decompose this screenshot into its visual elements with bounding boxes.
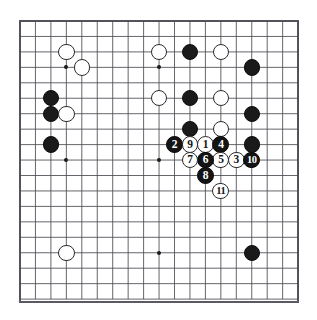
move-stone-7[interactable]: 7 (182, 152, 199, 169)
stone-white[interactable] (58, 106, 74, 122)
stone-white[interactable] (58, 245, 74, 261)
move-stone-1[interactable]: 1 (197, 136, 214, 153)
move-stone-6[interactable]: 6 (197, 152, 214, 169)
stone-black[interactable] (43, 136, 59, 152)
stone-black[interactable] (182, 90, 198, 106)
stone-black[interactable] (182, 44, 198, 60)
hoshi-point (157, 251, 161, 255)
move-stone-11[interactable]: 11 (212, 183, 229, 200)
stone-black[interactable] (43, 106, 59, 122)
stone-white[interactable] (151, 90, 167, 106)
stone-black[interactable] (244, 106, 260, 122)
move-stone-5[interactable]: 5 (212, 152, 229, 169)
move-stone-4[interactable]: 4 (212, 136, 229, 153)
stone-white[interactable] (213, 90, 229, 106)
move-stone-3[interactable]: 3 (228, 152, 245, 169)
stone-black[interactable] (244, 245, 260, 261)
move-stone-2[interactable]: 2 (166, 136, 183, 153)
stone-black[interactable] (244, 59, 260, 75)
move-stone-8[interactable]: 8 (197, 167, 214, 184)
move-stone-10[interactable]: 10 (243, 152, 260, 169)
hoshi-point (64, 158, 68, 162)
stone-white[interactable] (74, 59, 90, 75)
stone-white[interactable] (58, 44, 74, 60)
stone-black[interactable] (43, 90, 59, 106)
stone-black[interactable] (182, 121, 198, 137)
stone-black[interactable] (244, 136, 260, 152)
hoshi-point (64, 65, 68, 69)
go-diagram-root: 1234567891011 (0, 0, 317, 320)
hoshi-point (157, 65, 161, 69)
move-stone-9[interactable]: 9 (182, 136, 199, 153)
stone-white[interactable] (213, 121, 229, 137)
stone-layer: 1234567891011 (0, 0, 317, 320)
stone-white[interactable] (151, 44, 167, 60)
stone-white[interactable] (213, 44, 229, 60)
hoshi-point (157, 158, 161, 162)
